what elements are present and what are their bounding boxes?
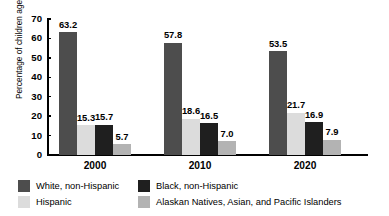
legend-row: White, non-HispanicBlack, non-Hispanic — [18, 178, 378, 194]
bar-slot: 57.8 — [164, 19, 182, 155]
bar-slot: 18.6 — [182, 19, 200, 155]
legend-color-swatch — [138, 180, 150, 192]
bar-value-label: 16.9 — [305, 110, 323, 119]
chart-legend: White, non-HispanicBlack, non-HispanicHi… — [18, 178, 378, 210]
bar-value-label: 63.2 — [59, 20, 77, 29]
bar[interactable] — [269, 51, 287, 155]
bar-slot: 15.3 — [77, 19, 95, 155]
bar-slot: 5.7 — [113, 19, 131, 155]
bar[interactable] — [218, 141, 236, 155]
bar-slot: 53.5 — [269, 19, 287, 155]
y-axis-tick-label: 20 — [22, 111, 42, 121]
bar[interactable] — [113, 144, 131, 155]
bar[interactable] — [323, 140, 341, 155]
bar[interactable] — [287, 113, 305, 155]
bar-value-label: 5.7 — [115, 132, 128, 141]
legend-color-swatch — [18, 196, 30, 208]
y-axis-tick-label: 70 — [22, 14, 42, 24]
legend-color-swatch — [138, 196, 150, 208]
bar[interactable] — [77, 125, 95, 155]
bar[interactable] — [182, 119, 200, 155]
legend-item[interactable]: Black, non-Hispanic — [138, 180, 238, 192]
legend-label: Alaskan Natives, Asian, and Pacific Isla… — [156, 197, 342, 207]
legend-label: White, non-Hispanic — [36, 181, 119, 191]
bar-slot: 15.7 — [95, 19, 113, 155]
bar-group: 53.521.716.97.9 — [269, 19, 341, 155]
bar-value-label: 53.5 — [269, 39, 287, 48]
bar-value-label: 16.5 — [200, 111, 218, 120]
bar-slot: 7.0 — [218, 19, 236, 155]
legend-item[interactable]: Hispanic — [18, 196, 138, 208]
legend-item[interactable]: White, non-Hispanic — [18, 180, 138, 192]
bar-slot: 7.9 — [323, 19, 341, 155]
bar-value-label: 57.8 — [164, 30, 182, 39]
bar-value-label: 7.9 — [325, 127, 338, 136]
bar-slot: 21.7 — [287, 19, 305, 155]
bar-value-label: 18.6 — [182, 106, 200, 115]
x-axis-group-label: 2020 — [294, 160, 317, 171]
legend-label: Black, non-Hispanic — [156, 181, 238, 191]
bar-value-label: 21.7 — [287, 100, 305, 109]
bar-value-label: 15.7 — [95, 112, 113, 121]
plot-area: 63.215.315.75.757.818.616.57.053.521.716… — [47, 19, 368, 155]
bar-group: 57.818.616.57.0 — [164, 19, 236, 155]
bar[interactable] — [164, 43, 182, 155]
y-axis-tick-label: 0 — [22, 150, 42, 160]
bar-group: 63.215.315.75.7 — [59, 19, 131, 155]
legend-item[interactable]: Alaskan Natives, Asian, and Pacific Isla… — [138, 196, 342, 208]
x-axis-group-label: 2000 — [84, 160, 107, 171]
bar-slot: 63.2 — [59, 19, 77, 155]
bar-value-label: 15.3 — [77, 113, 95, 122]
x-axis-group-label: 2010 — [189, 160, 212, 171]
bar[interactable] — [95, 125, 113, 156]
bar-chart: Percentage of children ages 5–17 7060504… — [0, 0, 389, 216]
y-axis-tick-label: 60 — [22, 34, 42, 44]
y-axis-tick-label: 40 — [22, 72, 42, 82]
legend-color-swatch — [18, 180, 30, 192]
bar-value-label: 7.0 — [220, 129, 233, 138]
bar[interactable] — [59, 32, 77, 155]
bar[interactable] — [200, 123, 218, 155]
y-axis-tick-label: 30 — [22, 92, 42, 102]
bar-slot: 16.5 — [200, 19, 218, 155]
bar-slot: 16.9 — [305, 19, 323, 155]
y-axis-tick-label: 50 — [22, 53, 42, 63]
bar[interactable] — [305, 122, 323, 155]
legend-row: HispanicAlaskan Natives, Asian, and Paci… — [18, 194, 378, 210]
y-axis-tick-label: 10 — [22, 131, 42, 141]
legend-label: Hispanic — [36, 197, 72, 207]
